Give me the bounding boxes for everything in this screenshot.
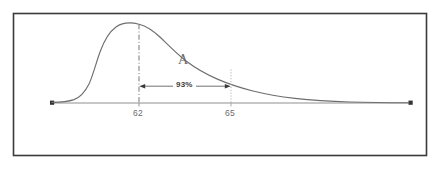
x-tick-label-62: 62: [133, 108, 143, 118]
interval-arrow-head-left: [139, 84, 145, 89]
interval-percent-label: 93%: [173, 80, 196, 89]
density-curve: [52, 23, 409, 103]
area-label-a: A: [178, 52, 188, 68]
skewed-distribution-chart: [0, 0, 441, 169]
outer-border: [14, 14, 427, 156]
figure-root: A 93% 62 65: [0, 0, 441, 169]
x-tick-label-65: 65: [225, 108, 235, 118]
